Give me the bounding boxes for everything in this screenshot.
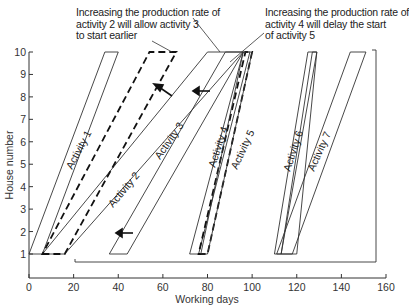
activity-labels: Activity 1Activity 2Activity 3Activity 4…: [63, 120, 333, 210]
activity-label: Activity 6: [280, 129, 304, 173]
x-tick-label: 120: [288, 281, 306, 293]
y-tick-label: 6: [20, 136, 26, 148]
y-tick-label: 4: [20, 181, 26, 193]
y-tick-label: 8: [20, 91, 26, 103]
y-tick-label: 10: [14, 46, 26, 58]
arrow-activity3-head: [193, 87, 199, 95]
y-tick-label: 7: [20, 113, 26, 125]
activity-label: Activity 5: [228, 128, 257, 171]
left-annotation-line-1: Increasing the production rate of: [76, 7, 220, 19]
y-tick-label: 1: [20, 248, 26, 260]
x-tick-label: 40: [112, 281, 124, 293]
x-tick-label: 100: [243, 281, 261, 293]
activity-3-bar: [109, 52, 243, 254]
left-note-leader: [152, 41, 172, 52]
y-tick-label: 9: [20, 68, 26, 80]
activity-label: Activity 7: [305, 129, 333, 172]
x-tick-label: 60: [157, 281, 169, 293]
y-axis-label: House number: [3, 130, 15, 199]
right-annotation: Increasing the production rate of activi…: [265, 7, 409, 42]
x-tick-label: 140: [333, 281, 351, 293]
x-tick-label: 160: [377, 281, 395, 293]
activity-label: Activity 2: [105, 169, 141, 209]
arrow-activity3-bottom-head: [116, 229, 122, 237]
right-annotation-line-1: Increasing the production rate of: [265, 7, 409, 19]
x-axis-label: Working days: [175, 293, 238, 305]
y-tick-label: 5: [20, 158, 26, 170]
activity-label: Activity 3: [152, 120, 186, 161]
right-note-leader-b: [230, 33, 264, 62]
y-tick-label: 2: [20, 226, 26, 238]
x-tick-labels: 020406080100120140160: [26, 281, 395, 293]
left-annotation-line-3: to start earlier: [76, 30, 220, 42]
x-tick-label: 0: [26, 281, 32, 293]
y-tick-labels: 12345678910: [14, 46, 26, 260]
right-annotation-line-3: of activity 5: [265, 30, 409, 42]
x-tick-label: 20: [68, 281, 80, 293]
x-tick-label: 80: [202, 281, 214, 293]
y-tick-label: 3: [20, 203, 26, 215]
left-annotation: Increasing the production rate of activi…: [76, 7, 220, 42]
